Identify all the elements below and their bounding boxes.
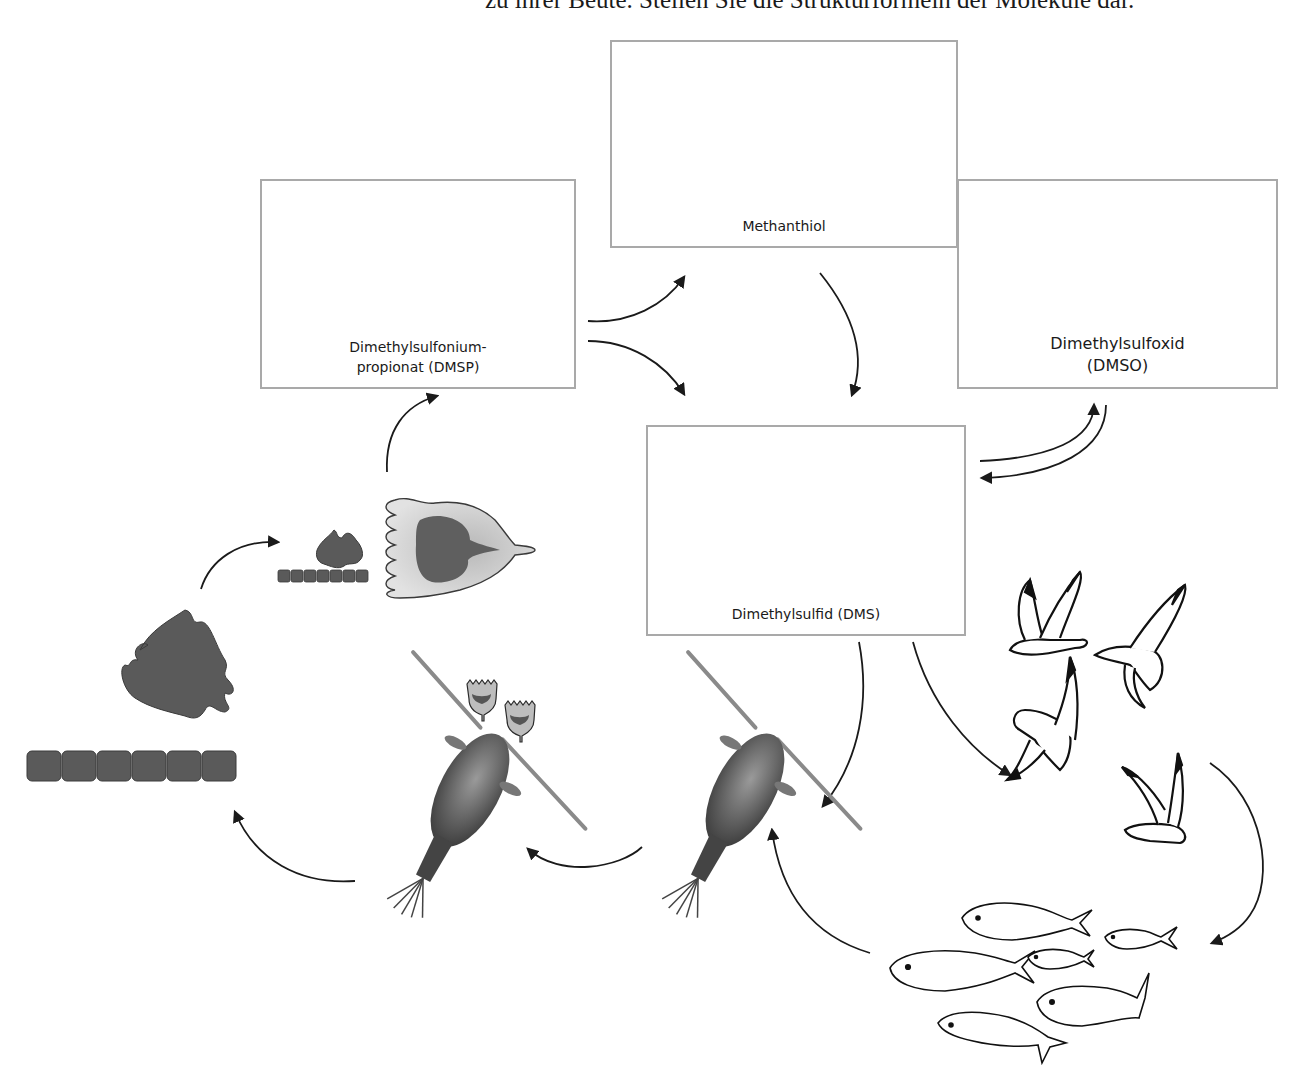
arrow-copepod-to-phyto [235,812,355,881]
fish-school-icon [890,903,1177,1063]
ciliates-icon [467,680,535,742]
copepod-icon-1 [302,652,621,972]
arrow-methanthiol-to-dms [820,273,858,395]
arrow-phyto-to-dinoflagellate [201,542,278,589]
dinoflagellate-icon [386,499,535,598]
arrow-dmsp-to-dms [588,341,684,394]
diagram-graphics [0,0,1312,1081]
arrow-dmso-to-dms [982,405,1106,478]
arrow-copepod2-to-copepod1 [528,847,642,867]
arrow-fish-to-copepod [772,830,870,953]
phytoplankton-icon [27,610,236,781]
arrow-seabirds-to-fish [1210,763,1263,943]
seabirds-icon [1007,572,1185,843]
arrow-dmsp-to-methanthiol [588,277,684,321]
arrow-dms-to-dmso [980,405,1094,461]
copepod-icon-2 [577,652,896,972]
arrow-dinoflagellate-to-dmsp [387,396,437,472]
arrow-dms-to-seabirds [913,642,1010,775]
arrow-dms-to-copepod [823,642,863,806]
small-phytoplankton-icon [278,530,368,582]
